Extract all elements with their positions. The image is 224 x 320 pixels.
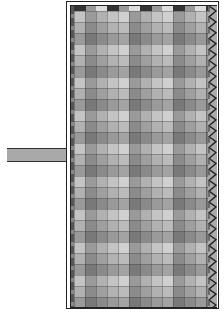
fabric-row — [74, 297, 208, 308]
fabric-row — [74, 44, 208, 55]
fabric-row — [74, 11, 208, 22]
grid-line — [74, 44, 208, 45]
grid-line — [74, 55, 208, 56]
grid-line — [74, 11, 208, 12]
grid-line — [74, 66, 208, 67]
grid-line — [74, 143, 208, 144]
gingham-panel — [66, 1, 219, 309]
gingham-fabric — [74, 6, 208, 307]
zigzag-stitch-icon — [208, 6, 217, 307]
grid-line — [74, 209, 208, 210]
grid-line — [74, 110, 208, 111]
grid-line — [74, 165, 208, 166]
grid-line — [74, 88, 208, 89]
fabric-row — [74, 55, 208, 66]
grid-line — [74, 154, 208, 155]
fabric-row — [74, 286, 208, 297]
panel-inner — [70, 5, 217, 308]
fabric-row — [74, 88, 208, 99]
grid-line — [74, 242, 208, 243]
handle-bar — [7, 148, 69, 162]
grid-line — [74, 121, 208, 122]
grid-line — [74, 198, 208, 199]
grid-line — [74, 275, 208, 276]
fabric-row — [74, 22, 208, 33]
fabric-row — [74, 66, 208, 77]
fabric-row — [74, 165, 208, 176]
grid-line — [74, 187, 208, 188]
fabric-row — [74, 99, 208, 110]
grid-line — [74, 99, 208, 100]
grid-line — [74, 77, 208, 78]
grid-line — [74, 231, 208, 232]
fabric-row — [74, 198, 208, 209]
fabric-row — [74, 154, 208, 165]
grid-line — [74, 176, 208, 177]
grid-line — [74, 264, 208, 265]
fabric-row — [74, 209, 208, 220]
grid-line — [74, 220, 208, 221]
fabric-row — [74, 231, 208, 242]
grid-line — [74, 286, 208, 287]
fabric-row — [74, 110, 208, 121]
fabric-row — [74, 176, 208, 187]
fabric-row — [74, 242, 208, 253]
fabric-row — [74, 187, 208, 198]
fabric-row — [74, 220, 208, 231]
grid-line — [74, 132, 208, 133]
top-band — [74, 6, 208, 11]
fabric-row — [74, 253, 208, 264]
fabric-row — [74, 275, 208, 286]
fabric-row — [74, 132, 208, 143]
fabric-row — [74, 143, 208, 154]
fabric-row — [74, 121, 208, 132]
grid-line — [74, 253, 208, 254]
fabric-row — [74, 33, 208, 44]
grid-line — [74, 22, 208, 23]
grid-line — [74, 33, 208, 34]
fabric-row — [74, 264, 208, 275]
grid-line — [74, 297, 208, 298]
fabric-row — [74, 77, 208, 88]
